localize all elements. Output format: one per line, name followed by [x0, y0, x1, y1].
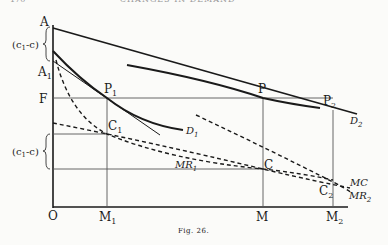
bracket-lower [43, 134, 50, 169]
demand-shift-diagram: A A1 F O (c1-c) (c1-c) M1 M M2 P1 P P2 C… [0, 0, 388, 245]
label-p: P [258, 82, 266, 96]
label-a: A [39, 15, 49, 29]
label-bracket-lower: (c1-c) [12, 146, 39, 159]
curve-mr2 [196, 115, 352, 193]
label-p1: P1 [104, 82, 117, 98]
label-d1: D1 [185, 125, 199, 139]
figure-caption: Fig. 26. [178, 227, 209, 235]
label-c1: C1 [108, 119, 122, 135]
label-c2: C2 [319, 184, 333, 200]
label-p2: P2 [323, 94, 336, 110]
bracket-upper [43, 27, 50, 61]
label-m1: M1 [99, 210, 116, 226]
label-d2: D2 [349, 115, 363, 129]
label-m2: M2 [326, 210, 343, 226]
curve-d2 [127, 65, 320, 108]
label-c: C [264, 158, 273, 172]
label-bracket-upper: (c1-c) [12, 39, 39, 52]
label-a1: A1 [37, 65, 52, 81]
label-mr1: MR1 [174, 159, 197, 173]
label-f: F [39, 92, 47, 106]
line-a-to-d2 [53, 28, 357, 114]
label-mr2: MR2 [348, 190, 372, 204]
label-mc: MC [349, 177, 368, 188]
curve-d1 [53, 51, 183, 130]
curve-mc [53, 123, 350, 188]
label-origin: O [48, 209, 58, 223]
label-m: M [256, 210, 268, 224]
